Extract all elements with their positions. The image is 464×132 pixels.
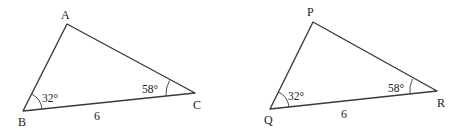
angle-arc-c bbox=[166, 81, 170, 97]
vertex-label-r: R bbox=[437, 96, 445, 110]
vertex-label-b: B bbox=[18, 115, 26, 129]
vertex-label-q: Q bbox=[264, 113, 273, 127]
angle-label-c: 58° bbox=[142, 83, 159, 95]
triangle-pqr: P Q R 32° 58° 6 bbox=[264, 5, 445, 127]
similar-triangles-diagram: A B C 32° 58° 6 P Q R 32° 58° 6 bbox=[0, 0, 464, 132]
vertex-label-c: C bbox=[193, 98, 201, 112]
angle-label-q: 32° bbox=[288, 90, 305, 102]
angle-label-b: 32° bbox=[42, 92, 59, 104]
angle-arc-b bbox=[32, 94, 42, 109]
triangle-abc: A B C 32° 58° 6 bbox=[18, 8, 201, 129]
side-label-bc: 6 bbox=[94, 109, 100, 123]
angle-arc-r bbox=[410, 79, 413, 94]
vertex-label-a: A bbox=[61, 8, 70, 22]
angle-label-r: 58° bbox=[388, 82, 405, 94]
side-label-qr: 6 bbox=[341, 107, 347, 121]
vertex-label-p: P bbox=[307, 5, 314, 19]
